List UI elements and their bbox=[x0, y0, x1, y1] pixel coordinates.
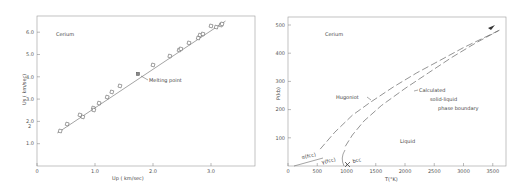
data-point bbox=[214, 25, 218, 29]
gamma-fcc-label: γ(fcc) bbox=[321, 156, 336, 166]
y-tick-label: 300 bbox=[275, 78, 285, 84]
y-tick-label: 100 bbox=[275, 135, 285, 141]
right-plot-frame bbox=[288, 17, 506, 166]
left-x-axis-label: Up ( km/sec) bbox=[112, 175, 144, 182]
x-tick-label: 3500 bbox=[486, 168, 499, 174]
alpha-fcc-label: α(fcc) bbox=[301, 151, 316, 160]
right-x-axis-label: T(°K) bbox=[384, 176, 398, 182]
x-tick-label: 1.0 bbox=[91, 168, 99, 174]
data-point bbox=[81, 115, 85, 119]
data-point bbox=[97, 101, 101, 105]
y-tick-label: 4.0 bbox=[26, 74, 34, 80]
x-tick-label: 1500 bbox=[369, 168, 382, 174]
x-tick-label: 2.0 bbox=[149, 168, 157, 174]
boundary-label-line3: phase boundary bbox=[438, 105, 479, 112]
x-tick-label: 0 bbox=[35, 168, 38, 174]
melting-point-pointer bbox=[141, 76, 148, 80]
data-point bbox=[220, 22, 224, 26]
data-point bbox=[168, 54, 172, 58]
right-x-ticks: 0500100015002000250030003500 bbox=[286, 163, 499, 174]
left-plot: 1.02.03.04.05.06.0 01.02.03.0 Cerium Up … bbox=[21, 16, 255, 182]
data-point bbox=[209, 24, 213, 28]
y-tick-label: 3.0 bbox=[26, 96, 34, 102]
y-tick-label: 200 bbox=[275, 106, 285, 112]
right-plot: 100200300400500 050010001500200025003000… bbox=[275, 17, 506, 182]
right-y-axis-label: P(kb) bbox=[275, 87, 281, 100]
y-tick-label: 400 bbox=[275, 50, 285, 56]
data-point bbox=[92, 108, 96, 112]
melting-point-label: Melting point bbox=[149, 77, 182, 84]
boundary-label-line2: solid-liquid bbox=[430, 96, 457, 103]
melting-point-marker bbox=[136, 72, 139, 75]
phase-boundary-solid-segment bbox=[342, 150, 345, 166]
boundary-pointer bbox=[414, 90, 418, 91]
x-tick-label: 3.0 bbox=[207, 168, 215, 174]
data-point bbox=[65, 122, 69, 126]
liquid-region-label: Liquid bbox=[400, 138, 415, 145]
data-point bbox=[58, 129, 62, 133]
data-point bbox=[110, 90, 114, 94]
right-y-ticks: 100200300400500 bbox=[275, 22, 291, 141]
y-tick-label: 1.0 bbox=[26, 140, 34, 146]
left-material-label: Cerium bbox=[56, 31, 74, 37]
right-material-label: Cerium bbox=[325, 31, 343, 37]
left-plot-frame bbox=[37, 16, 255, 166]
data-point bbox=[151, 63, 155, 67]
data-point bbox=[187, 41, 191, 45]
hugoniot-curve bbox=[320, 29, 501, 149]
endpoint-arrow-icon bbox=[488, 25, 495, 30]
data-point bbox=[179, 47, 183, 51]
boundary-label-line1: Calculated bbox=[419, 87, 446, 93]
y-tick-label: 5.0 bbox=[26, 51, 34, 57]
data-point bbox=[105, 95, 109, 99]
x-tick-label: 2500 bbox=[428, 168, 441, 174]
bcc-label: bcc bbox=[352, 156, 362, 164]
left-stray-mark: 2 bbox=[28, 123, 31, 129]
x-tick-label: 500 bbox=[312, 168, 322, 174]
x-tick-label: 1000 bbox=[340, 168, 353, 174]
x-tick-label: 2000 bbox=[399, 168, 412, 174]
x-tick-label: 0 bbox=[286, 168, 289, 174]
y-tick-label: 500 bbox=[275, 22, 285, 28]
left-x-ticks: 01.02.03.0 bbox=[35, 163, 215, 174]
hugoniot-pointer bbox=[367, 97, 371, 100]
data-point bbox=[201, 32, 205, 36]
alpha-gamma-boundary bbox=[294, 158, 323, 166]
y-tick-label: 6.0 bbox=[26, 29, 34, 35]
data-point bbox=[118, 84, 122, 88]
x-tick-label: 3000 bbox=[457, 168, 470, 174]
hugoniot-label: Hugoniot bbox=[336, 94, 359, 101]
figure-canvas: 1.02.03.04.05.06.0 01.02.03.0 Cerium Up … bbox=[0, 0, 532, 188]
left-y-axis-label: Us ( km/sec) bbox=[21, 74, 27, 105]
